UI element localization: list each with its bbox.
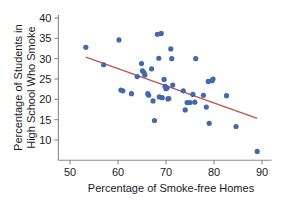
x-axis-title: Percentage of Smoke-free Homes <box>88 182 255 194</box>
data-point <box>210 76 215 81</box>
data-point <box>129 91 134 96</box>
y-tick-label: 40 <box>39 12 51 24</box>
y-tick-label: 10 <box>39 134 51 146</box>
scatter-chart-figure: 101520253035405060708090Percentage of Sm… <box>0 0 289 205</box>
data-point <box>204 104 209 109</box>
data-point <box>181 88 186 93</box>
plot-svg: 101520253035405060708090Percentage of Sm… <box>0 0 289 205</box>
data-point <box>161 77 166 82</box>
data-point <box>192 100 197 105</box>
data-point <box>160 95 165 100</box>
x-tick-label: 70 <box>160 166 172 178</box>
y-axis-title-line-2: High School Who Smoke <box>25 26 37 148</box>
trend-line <box>86 57 257 118</box>
axis-labels-group: 101520253035405060708090Percentage of Sm… <box>12 12 268 194</box>
data-point <box>166 96 171 101</box>
data-points-group <box>83 31 260 154</box>
x-tick-label: 80 <box>208 166 220 178</box>
y-tick-label: 35 <box>39 32 51 44</box>
data-point <box>190 92 195 97</box>
data-point <box>135 74 140 79</box>
data-point <box>207 121 212 126</box>
data-point <box>164 85 169 90</box>
x-tick-label: 90 <box>256 166 268 178</box>
data-point <box>170 83 175 88</box>
data-point <box>101 62 106 67</box>
data-point <box>233 124 238 129</box>
data-point <box>224 93 229 98</box>
data-point <box>149 66 154 71</box>
data-point <box>201 93 206 98</box>
trend-line-group <box>86 57 257 118</box>
data-point <box>255 149 260 154</box>
axes-group <box>54 15 271 164</box>
data-point <box>168 46 173 51</box>
data-point <box>169 56 174 61</box>
data-point <box>150 98 155 103</box>
data-point <box>183 107 188 112</box>
data-point <box>152 118 157 123</box>
data-point <box>83 45 88 50</box>
data-point <box>187 100 192 105</box>
data-point <box>159 31 164 36</box>
data-point <box>146 93 151 98</box>
data-point <box>142 72 147 77</box>
y-axis-title-line-1: Percentage of Students in <box>12 24 24 151</box>
data-point <box>156 56 161 61</box>
data-point <box>116 37 121 42</box>
y-tick-label: 30 <box>39 53 51 65</box>
data-point <box>139 61 144 66</box>
y-tick-label: 25 <box>39 73 51 85</box>
data-point <box>120 88 125 93</box>
y-tick-label: 15 <box>39 114 51 126</box>
x-tick-label: 50 <box>64 166 76 178</box>
data-point <box>193 56 198 61</box>
y-tick-label: 20 <box>39 93 51 105</box>
x-tick-label: 60 <box>112 166 124 178</box>
